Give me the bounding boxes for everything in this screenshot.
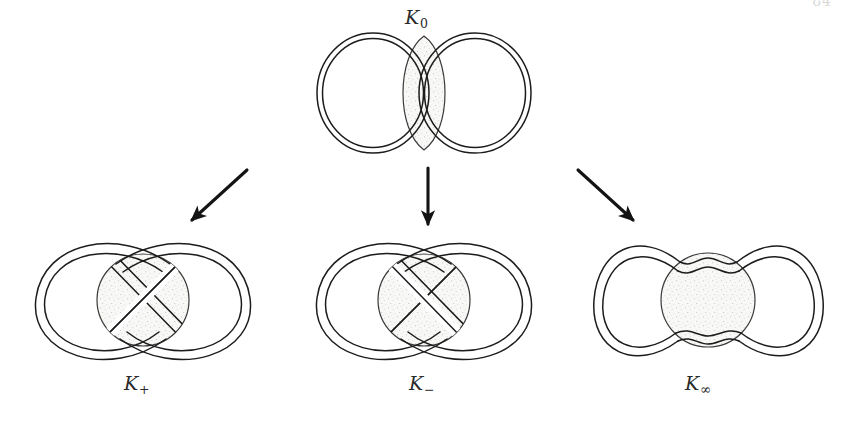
knot-k-infinity <box>594 246 823 356</box>
label-k-infinity-base: K <box>685 372 700 394</box>
label-k0-subscript: 0 <box>420 16 428 31</box>
label-k-infinity: K∞ <box>685 374 711 397</box>
arrow-group <box>192 168 633 224</box>
arrow-to-k-infinity <box>578 170 633 220</box>
arrow-to-k-plus <box>192 170 247 220</box>
knot-k-plus <box>35 244 250 360</box>
knot-k0 <box>317 33 531 153</box>
label-k0: K0 <box>405 8 428 31</box>
knot-skein-figure: K0 K+ K− K∞ 84 <box>0 0 848 430</box>
label-k-plus-base: K <box>124 372 139 394</box>
label-k0-base: K <box>405 6 420 28</box>
figure-ink <box>35 33 823 359</box>
label-k-plus: K+ <box>124 374 149 397</box>
label-k-minus-base: K <box>409 372 424 394</box>
knot-diagram-canvas <box>0 0 848 430</box>
label-k-minus: K− <box>409 374 434 397</box>
knot-k-minus <box>316 244 531 360</box>
label-k-plus-subscript: + <box>139 382 149 397</box>
label-k-minus-subscript: − <box>424 382 434 397</box>
label-k-infinity-subscript: ∞ <box>700 381 711 397</box>
page-number: 84 <box>812 0 832 9</box>
